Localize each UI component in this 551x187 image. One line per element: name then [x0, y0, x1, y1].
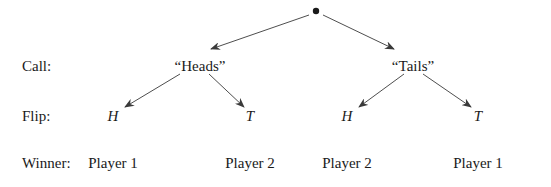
edge-arrow-call_heads-to-flip_heads_t	[209, 74, 244, 107]
winner-outcome-4: Player 1	[453, 154, 503, 172]
edge-arrow-call_tails-to-flip_tails_t	[423, 74, 471, 107]
root-node-dot	[313, 8, 319, 14]
node-call-heads: “Heads”	[175, 57, 226, 75]
edge-arrow-root-to-call_tails	[323, 15, 394, 49]
node-flip-heads-t: T	[246, 107, 254, 125]
row-label-call: Call:	[22, 57, 51, 75]
winner-outcome-1: Player 1	[88, 154, 138, 172]
game-tree-diagram: Call: Flip: Winner: “Heads” “Tails” H T …	[0, 0, 551, 187]
node-flip-heads-h: H	[108, 107, 119, 125]
edge-arrow-root-to-call_heads	[211, 15, 309, 49]
node-flip-tails-h: H	[342, 107, 353, 125]
node-flip-tails-t: T	[474, 107, 482, 125]
row-label-winner: Winner:	[22, 154, 71, 172]
edge-arrow-call_tails-to-flip_tails_h	[359, 74, 404, 107]
row-label-flip: Flip:	[22, 107, 50, 125]
winner-outcome-3: Player 2	[322, 154, 372, 172]
edge-arrow-call_heads-to-flip_heads_h	[125, 74, 180, 107]
winner-outcome-2: Player 2	[225, 154, 275, 172]
node-call-tails: “Tails”	[392, 57, 434, 75]
